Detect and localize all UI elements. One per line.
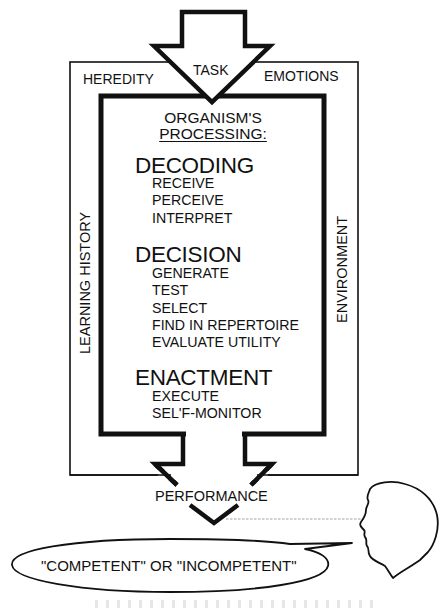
arrow-gap — [158, 470, 268, 480]
step-perceive: PERCEIVE — [152, 193, 224, 207]
step-generate: GENERATE — [152, 266, 229, 280]
step-find-in-repertoire: FIND IN REPERTOIRE — [152, 318, 299, 332]
environment-label: ENVIRONMENT — [335, 216, 350, 323]
emotions-label: EMOTIONS — [264, 69, 339, 83]
performance-label: PERFORMANCE — [155, 489, 268, 504]
cropped-caption-remnant — [95, 600, 375, 608]
step-execute: EXECUTE — [152, 389, 219, 403]
performance-arrow-head — [190, 505, 238, 523]
stage-enactment: ENACTMENT — [135, 367, 272, 390]
judgment-text: "COMPETENT" OR "INCOMPETENT" — [41, 558, 296, 573]
step-receive: RECEIVE — [152, 176, 214, 190]
step-interpret: INTERPRET — [152, 211, 232, 225]
stage-decision: DECISION — [135, 244, 241, 267]
learning-history-label: LEARNING HISTORY — [78, 212, 93, 354]
step-test: TEST — [152, 283, 188, 297]
step-self-monitor: SEL'F-MONITOR — [152, 406, 262, 420]
diagram-canvas — [0, 0, 445, 608]
processing-title-line1: ORGANISM'S — [133, 110, 293, 126]
task-arrow — [154, 12, 270, 102]
arrow-gap — [186, 431, 242, 439]
heredity-label: HEREDITY — [83, 72, 154, 86]
step-evaluate-utility: EVALUATE UTILITY — [152, 335, 281, 349]
human-head-profile-icon — [360, 482, 438, 578]
processing-title-line2: PROCESSING: — [133, 126, 293, 142]
step-select: SELECT — [152, 301, 207, 315]
task-label: TASK — [193, 63, 229, 77]
